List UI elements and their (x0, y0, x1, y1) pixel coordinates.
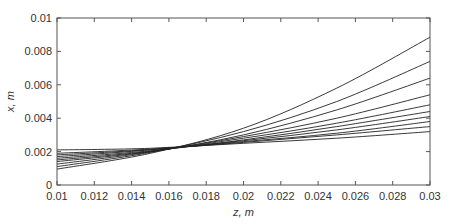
x-axis-ticks: 0.010.0120.0140.0160.0180.020.0220.0240.… (46, 18, 440, 202)
y-tick-label: 0.008 (24, 45, 52, 57)
y-tick-label: 0.006 (24, 79, 52, 91)
x-tick-label: 0.016 (155, 190, 183, 202)
line-chart: 0.010.0120.0140.0160.0180.020.0220.0240.… (0, 0, 450, 224)
y-tick-label: 0.002 (24, 146, 52, 158)
y-axis-ticks: 00.0020.0040.0060.0080.01 (24, 12, 430, 191)
x-axis-label: z, m (232, 206, 254, 218)
x-tick-label: 0.03 (419, 190, 440, 202)
x-tick-label: 0.026 (342, 190, 370, 202)
x-tick-label: 0.022 (267, 190, 295, 202)
x-tick-label: 0.024 (304, 190, 332, 202)
x-tick-label: 0.012 (81, 190, 109, 202)
x-tick-label: 0.02 (233, 190, 254, 202)
plot-lines (57, 37, 430, 169)
x-tick-label: 0.014 (118, 190, 146, 202)
y-tick-label: 0.004 (24, 112, 52, 124)
x-tick-label: 0.01 (46, 190, 67, 202)
x-tick-label: 0.028 (379, 190, 407, 202)
y-tick-label: 0 (46, 179, 52, 191)
x-tick-label: 0.018 (192, 190, 220, 202)
y-axis-label: x, m (4, 91, 16, 113)
y-tick-label: 0.01 (31, 12, 52, 24)
